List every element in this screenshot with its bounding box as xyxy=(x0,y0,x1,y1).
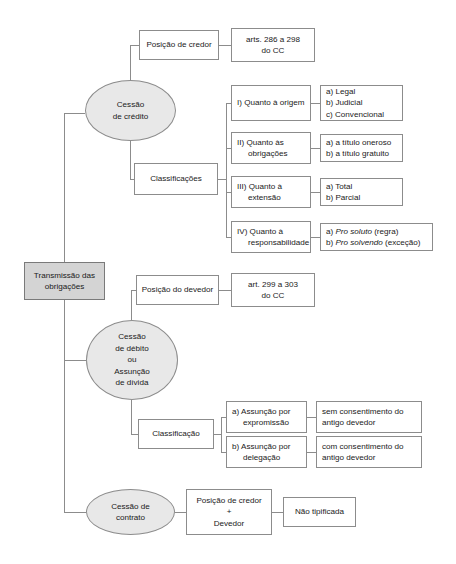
node-cessao-de-credito: Cessão de crédito xyxy=(85,80,176,141)
art-299-line2: do CC xyxy=(235,290,311,301)
extensao-detalhe-b: b) Parcial xyxy=(326,192,399,203)
node-assuncao-por-expromissao: a) Assunção por expromissão xyxy=(226,401,307,433)
sem-consentimento-line2: antigo devedor xyxy=(322,417,418,428)
quanto-a-responsabilidade-line2: responsabilidade xyxy=(237,237,307,248)
quanto-as-obrigacoes-line1: II) Quanto às xyxy=(237,137,307,148)
quanto-a-extensao-line2: extensão xyxy=(237,192,307,203)
node-arts-286-a-298: arts. 286 a 298 do CC xyxy=(231,28,315,62)
com-consentimento-line2: antigo devedor xyxy=(322,452,418,463)
origem-detalhe-c: c) Convencional xyxy=(326,109,399,120)
node-quanto-a-extensao: III) Quanto à extensão xyxy=(231,176,311,208)
sem-consentimento-line1: sem consentimento do xyxy=(322,406,418,417)
node-quanto-a-responsabilidade: IV) Quanto à responsabilidade xyxy=(231,221,311,253)
obrigacoes-detalhe-a: a) a título oneroso xyxy=(326,137,399,148)
node-classificacao: Classificação xyxy=(138,419,214,449)
origem-detalhe-a: a) Legal xyxy=(326,86,399,97)
origem-detalhe-b: b) Judicial xyxy=(326,97,399,108)
quanto-as-obrigacoes-line2: obrigações xyxy=(237,148,307,159)
credor-devedor-line3: Devedor xyxy=(190,518,268,529)
node-assuncao-por-delegacao: b) Assunção por delegação xyxy=(226,436,307,468)
node-posicao-do-devedor: Posição do devedor xyxy=(136,275,219,305)
posicao-do-devedor-label: Posição do devedor xyxy=(140,284,215,295)
obrigacoes-detalhe-b: b) a título gratuito xyxy=(326,148,399,159)
delegacao-line1: b) Assunção por xyxy=(232,441,303,452)
node-extensao-detalhes: a) Total b) Parcial xyxy=(320,178,403,206)
credor-devedor-line1: Posição de credor xyxy=(190,495,268,506)
node-obrigacoes-detalhes: a) a título oneroso b) a título gratuito xyxy=(320,134,403,162)
responsabilidade-b-suffix: (exceção) xyxy=(383,238,421,247)
node-quanto-a-origem: I) Quanto à origem xyxy=(231,85,311,121)
nao-tipificada-label: Não tipificada xyxy=(287,506,352,517)
extensao-detalhe-a: a) Total xyxy=(326,181,399,192)
art-299-line1: art. 299 a 303 xyxy=(235,279,311,290)
node-posicao-credor-mais-devedor: Posição de credor + Devedor xyxy=(186,489,272,535)
node-classificacoes: Classificações xyxy=(134,163,218,195)
responsabilidade-detalhe-b: b) Pro solvendo (exceção) xyxy=(326,237,429,248)
expromissao-line1: a) Assunção por xyxy=(232,406,303,417)
node-sem-consentimento: sem consentimento do antigo devedor xyxy=(316,401,422,433)
cessao-debito-line4: Assunção xyxy=(90,366,174,377)
node-cessao-de-debito: Cessão de débito ou Assunção de dívida xyxy=(86,320,178,400)
arts-286-line1: arts. 286 a 298 xyxy=(235,34,311,45)
cessao-contrato-line2: contrato xyxy=(90,512,171,523)
node-origem-detalhes: a) Legal b) Judicial c) Convencional xyxy=(320,85,403,121)
classificacao-label: Classificação xyxy=(142,428,210,439)
node-cessao-de-contrato: Cessão de contrato xyxy=(86,489,175,535)
root-label-line2: obrigações xyxy=(28,281,101,292)
quanto-a-origem-line1: I) Quanto à origem xyxy=(237,97,307,108)
node-art-299-a-303: art. 299 a 303 do CC xyxy=(231,273,315,307)
credor-devedor-line2: + xyxy=(190,506,268,517)
cessao-debito-line5: de dívida xyxy=(90,377,174,388)
cessao-debito-line2: de débito xyxy=(90,343,174,354)
cessao-debito-line3: ou xyxy=(90,354,174,365)
quanto-a-extensao-line1: III) Quanto à xyxy=(237,181,307,192)
expromissao-line2: expromissão xyxy=(232,417,303,428)
node-quanto-as-obrigacoes: II) Quanto às obrigações xyxy=(231,132,311,164)
flowchart-transmissao-das-obrigacoes: Transmissão das obrigações Cessão de cré… xyxy=(0,0,456,564)
node-com-consentimento: com consentimento do antigo devedor xyxy=(316,436,422,468)
node-posicao-de-credor: Posição de credor xyxy=(139,30,219,60)
arts-286-line2: do CC xyxy=(235,45,311,56)
responsabilidade-b-italic: Pro solvendo xyxy=(335,238,382,247)
responsabilidade-detalhe-a: a) Pro soluto (regra) xyxy=(326,226,429,237)
classificacoes-label: Classificações xyxy=(138,173,214,184)
posicao-de-credor-label: Posição de credor xyxy=(143,39,215,50)
cessao-contrato-line1: Cessão de xyxy=(90,501,171,512)
cessao-debito-line1: Cessão xyxy=(90,331,174,342)
node-nao-tipificada: Não tipificada xyxy=(283,497,356,527)
cessao-credito-line1: Cessão xyxy=(89,99,172,110)
quanto-a-responsabilidade-line1: IV) Quanto à xyxy=(237,226,307,237)
node-responsabilidade-detalhes: a) Pro soluto (regra) b) Pro solvendo (e… xyxy=(320,223,433,251)
node-transmissao-das-obrigacoes: Transmissão das obrigações xyxy=(24,262,105,300)
delegacao-line2: delegação xyxy=(232,452,303,463)
cessao-credito-line2: de crédito xyxy=(89,111,172,122)
root-label-line1: Transmissão das xyxy=(28,270,101,281)
responsabilidade-a-suffix: (regra) xyxy=(372,227,399,236)
responsabilidade-a-italic: Pro soluto xyxy=(335,227,371,236)
com-consentimento-line1: com consentimento do xyxy=(322,441,418,452)
